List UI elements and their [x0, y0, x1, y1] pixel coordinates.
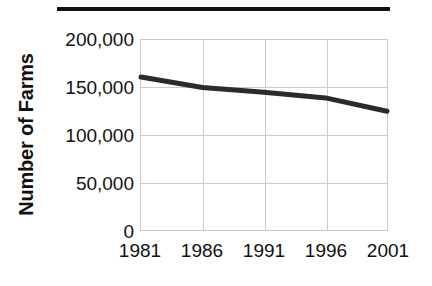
y-axis-title: Number of Farms	[15, 35, 38, 235]
y-tick-label: 50,000	[42, 174, 134, 193]
x-tick-label: 2001	[348, 240, 428, 262]
y-axis-tick-labels: 200,000 150,000 100,000 50,000 0	[42, 27, 134, 243]
y-tick-label: 200,000	[42, 30, 134, 49]
plot-area	[140, 39, 388, 231]
y-tick-label: 0	[42, 222, 134, 241]
data-series-line	[141, 40, 387, 230]
y-tick-label: 150,000	[42, 78, 134, 97]
x-axis-tick-labels: 1981 1986 1991 1996 2001	[100, 240, 432, 270]
chart-figure: Number of Farms 200,000 150,000 100,000 …	[0, 0, 432, 286]
y-tick-label: 100,000	[42, 126, 134, 145]
top-divider-rule	[57, 7, 390, 11]
